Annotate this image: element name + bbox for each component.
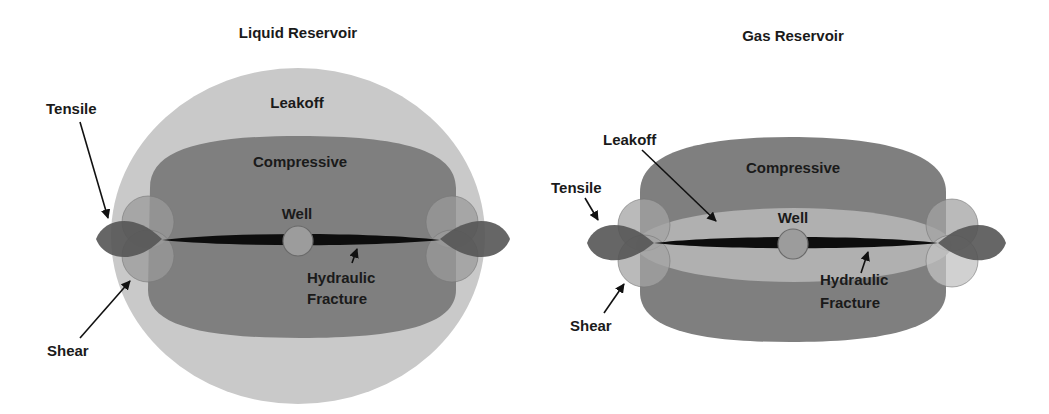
fracture-label-line1: Hydraulic [820,271,888,288]
fracture-label-line1: Hydraulic [307,269,375,286]
tensile-label: Tensile [46,100,97,117]
tensile-label: Tensile [551,179,602,196]
shear-label: Shear [570,317,612,334]
tensile-arrow [80,122,108,218]
tensile-arrow [585,198,598,220]
panel-title: Gas Reservoir [742,27,844,44]
compressive-label: Compressive [253,153,347,170]
shear-arrow [604,284,624,313]
well-circle [778,229,808,259]
well-label: Well [778,209,809,226]
stimulated-reservoir-diagram: Liquid Reservoir Leakoff Compressive Wel… [0,0,1049,414]
leakoff-label: Leakoff [270,94,324,111]
fracture-label-line2: Fracture [307,290,367,307]
shear-arrow [80,281,130,338]
shear-label: Shear [47,342,89,359]
gas-reservoir-panel: Gas Reservoir Compressive Well Hydraulic… [551,27,1006,342]
compressive-label: Compressive [746,159,840,176]
liquid-reservoir-panel: Liquid Reservoir Leakoff Compressive Wel… [46,24,510,404]
panel-title: Liquid Reservoir [239,24,358,41]
well-label: Well [282,205,313,222]
fracture-label-line2: Fracture [820,294,880,311]
leakoff-label: Leakoff [603,131,657,148]
well-circle [283,226,313,256]
